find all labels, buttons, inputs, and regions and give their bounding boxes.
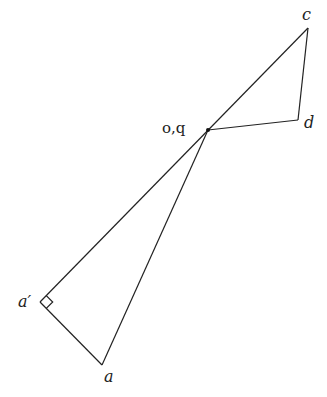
label-d: d: [304, 113, 314, 132]
line-a-prime-a: [40, 302, 102, 365]
line-a-prime-c: [40, 28, 308, 302]
line-oq-a: [102, 130, 208, 365]
label-c: c: [302, 5, 311, 24]
point-oq: [206, 128, 210, 132]
right-angle-marker: [46, 296, 52, 309]
diagram-canvas: c d o,q a′ a: [0, 0, 327, 397]
line-d-oq: [208, 120, 298, 130]
label-a-prime: a′: [18, 292, 32, 311]
label-a: a: [104, 367, 114, 386]
line-c-d: [298, 28, 308, 120]
label-oq: o,q: [162, 119, 186, 137]
